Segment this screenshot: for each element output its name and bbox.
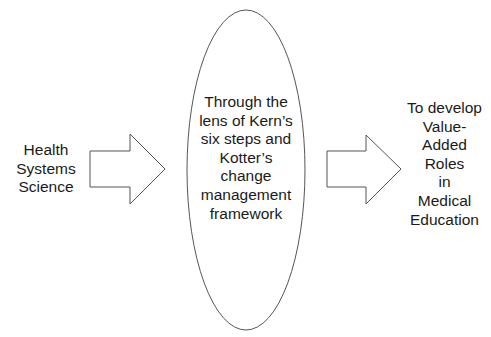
output-line: in	[398, 173, 491, 192]
process-line: lens of Kern’s	[190, 112, 302, 131]
process-line: six steps and	[190, 130, 302, 149]
process-line: change	[190, 167, 302, 186]
process-line: Through the	[190, 93, 302, 112]
process-label: Through the lens of Kern’s six steps and…	[190, 93, 302, 223]
output-label: To develop Value- Added Roles in Medical…	[398, 99, 491, 229]
flow-diagram: Health Systems Science Through the lens …	[0, 0, 491, 337]
output-line: Education	[398, 211, 491, 230]
output-line: Added	[398, 136, 491, 155]
input-line: Health	[0, 141, 92, 160]
arrow-right-icon	[90, 134, 165, 204]
process-line: management	[190, 186, 302, 205]
output-line: Medical	[398, 192, 491, 211]
process-line: framework	[190, 205, 302, 224]
input-label: Health Systems Science	[0, 141, 92, 197]
process-line: Kotter’s	[190, 149, 302, 168]
output-line: Value-	[398, 118, 491, 137]
arrow-right-icon	[327, 135, 401, 204]
input-line: Systems	[0, 160, 92, 179]
output-line: To develop	[398, 99, 491, 118]
output-line: Roles	[398, 155, 491, 174]
input-line: Science	[0, 178, 92, 197]
